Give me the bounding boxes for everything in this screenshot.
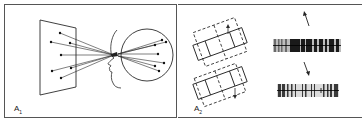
upper-arrow	[303, 11, 309, 26]
image-points	[154, 39, 167, 72]
retina-sphere	[121, 29, 173, 81]
object-points	[50, 32, 72, 79]
panel-a1-label: A1	[14, 104, 22, 115]
object-plane	[40, 20, 76, 95]
eye	[111, 52, 118, 57]
panel-a2: A2	[178, 0, 362, 125]
lower-grid-pair	[193, 63, 247, 106]
panel-a2-label: A2	[194, 104, 202, 115]
image-rays	[118, 40, 166, 71]
panel-a1: A1	[0, 0, 178, 125]
head-profile	[108, 30, 121, 88]
panel-a2-drawing	[178, 0, 362, 125]
upper-grid-pair	[193, 18, 247, 67]
figure: A1	[0, 0, 362, 125]
lower-arrow	[304, 62, 310, 76]
upper-stripe-pattern	[273, 39, 341, 52]
lower-stripe-pattern	[277, 84, 339, 97]
panel-a1-drawing	[0, 0, 178, 125]
